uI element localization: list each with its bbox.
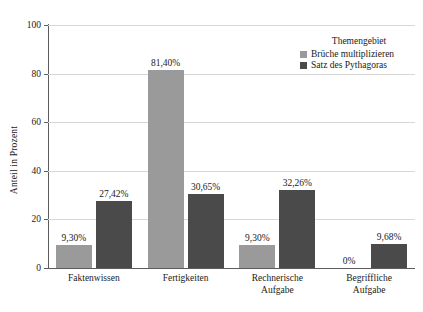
y-axis-tick-label: 80 — [32, 69, 42, 79]
bar: 81,40% — [148, 70, 184, 268]
y-axis-tick — [44, 25, 48, 26]
bar: 9,30% — [239, 245, 275, 268]
bar-value-label: 0% — [343, 256, 356, 266]
bar: 9,30% — [56, 245, 92, 268]
bar-value-label: 9,68% — [377, 232, 402, 242]
bar: 30,65% — [188, 194, 224, 268]
y-axis-tick — [44, 122, 48, 123]
gridline — [48, 122, 415, 123]
bar: 32,26% — [279, 190, 315, 268]
y-axis-tick-label: 100 — [27, 20, 41, 30]
gridline — [48, 25, 415, 26]
bar-value-label: 9,30% — [245, 233, 270, 243]
y-axis-tick-label: 0 — [36, 263, 41, 273]
gridline — [48, 74, 415, 75]
y-axis-tick — [44, 171, 48, 172]
bar: 9,68% — [371, 244, 407, 268]
x-axis-category-line: Aufgabe — [323, 285, 415, 297]
bar-value-label: 30,65% — [191, 182, 220, 192]
x-axis-category-label: RechnerischeAufgabe — [232, 273, 324, 296]
x-axis-category-line: Fertigkeiten — [140, 273, 232, 285]
x-axis-category-label: BegrifflicheAufgabe — [323, 273, 415, 296]
x-axis-category-label: Fertigkeiten — [140, 273, 232, 285]
x-axis-category-line: Rechnerische — [232, 273, 324, 285]
y-axis-tick-label: 60 — [32, 117, 42, 127]
y-axis-tick — [44, 219, 48, 220]
x-axis-category-line: Faktenwissen — [48, 273, 140, 285]
legend-swatch-icon — [300, 62, 307, 69]
legend-swatch-icon — [300, 51, 307, 58]
bar-value-label: 81,40% — [151, 58, 180, 68]
x-axis-line — [48, 268, 415, 269]
y-axis-tick-label: 40 — [32, 166, 42, 176]
x-axis-category-line: Aufgabe — [232, 285, 324, 297]
y-axis-tick-label: 20 — [32, 214, 42, 224]
legend-title: Themengebiet — [300, 36, 418, 46]
bar-value-label: 9,30% — [62, 233, 87, 243]
y-axis-tick — [44, 268, 48, 269]
bar-chart: Anteil in Prozent 0204060801009,30%27,42… — [0, 0, 423, 312]
legend-item-label: Satz des Pythagoras — [311, 60, 387, 70]
y-axis-title: Anteil in Prozent — [4, 4, 24, 312]
x-axis-category-label: Faktenwissen — [48, 273, 140, 285]
bar-value-label: 27,42% — [99, 189, 128, 199]
legend-item-label: Brüche multiplizieren — [311, 49, 394, 59]
y-axis-tick — [44, 74, 48, 75]
legend-item[interactable]: Satz des Pythagoras — [300, 60, 418, 70]
bar-value-label: 32,26% — [283, 178, 312, 188]
x-axis-category-line: Begriffliche — [323, 273, 415, 285]
legend-item[interactable]: Brüche multiplizieren — [300, 49, 418, 59]
bar: 27,42% — [96, 201, 132, 268]
gridline — [48, 171, 415, 172]
legend: Themengebiet Brüche multiplizierenSatz d… — [300, 36, 418, 71]
